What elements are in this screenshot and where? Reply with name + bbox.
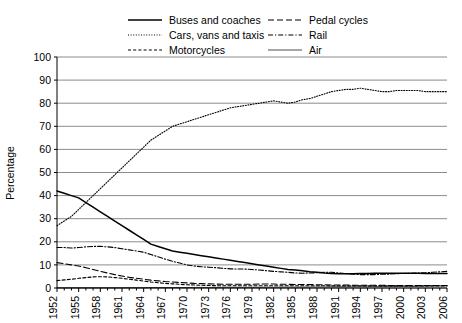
x-tick-label: 1985 (285, 296, 297, 320)
x-tick-label: 1964 (134, 296, 146, 320)
y-tick-label: 20 (39, 235, 51, 247)
series-line (57, 246, 447, 274)
y-tick-label: 50 (39, 166, 51, 178)
y-tick-label: 80 (39, 97, 51, 109)
x-tick-label: 1982 (264, 296, 276, 320)
legend-label: Pedal cycles (309, 14, 368, 26)
data-series (57, 88, 447, 288)
chart-figure: Buses and coachesPedal cyclesCars, vans … (0, 0, 462, 323)
legend-label: Buses and coaches (169, 14, 261, 26)
y-tick-label: 0 (45, 282, 51, 294)
legend-label: Motorcycles (169, 44, 225, 56)
y-tick-label: 10 (39, 259, 51, 271)
legend-label: Air (309, 44, 322, 56)
x-tick-label: 1991 (329, 296, 341, 320)
x-tick-label: 1997 (372, 296, 384, 320)
legend-label: Rail (309, 29, 327, 41)
axes (54, 57, 447, 292)
x-tick-label: 2003 (415, 296, 427, 320)
x-tick-label: 1979 (242, 296, 254, 320)
x-tick-label: 1967 (155, 296, 167, 320)
y-axis-tick-labels: 0102030405060708090100 (33, 51, 51, 294)
x-tick-label: 2006 (437, 296, 449, 320)
y-tick-label: 90 (39, 74, 51, 86)
chart-legend: Buses and coachesPedal cyclesCars, vans … (128, 14, 368, 56)
y-axis-title: Percentage (4, 146, 16, 200)
x-tick-label: 1958 (90, 296, 102, 320)
legend-label: Cars, vans and taxis (169, 29, 264, 41)
y-tick-label: 100 (33, 51, 51, 63)
series-line (57, 191, 447, 274)
y-tick-label: 70 (39, 120, 51, 132)
y-tick-label: 40 (39, 189, 51, 201)
series-line (57, 277, 447, 286)
y-tick-label: 60 (39, 143, 51, 155)
y-tick-label: 30 (39, 212, 51, 224)
line-chart: Buses and coachesPedal cyclesCars, vans … (0, 0, 462, 323)
x-tick-label: 1955 (69, 296, 81, 320)
series-line (57, 88, 447, 225)
x-axis-tick-labels: 1952195519581961196419671970197319761979… (47, 296, 449, 320)
x-tick-label: 1973 (199, 296, 211, 320)
x-tick-label: 2000 (394, 296, 406, 320)
x-tick-label: 1988 (307, 296, 319, 320)
x-tick-label: 1952 (47, 296, 59, 320)
x-tick-label: 1970 (177, 296, 189, 320)
x-tick-label: 1976 (220, 296, 232, 320)
x-tick-label: 1961 (112, 296, 124, 320)
x-tick-label: 1994 (350, 296, 362, 320)
